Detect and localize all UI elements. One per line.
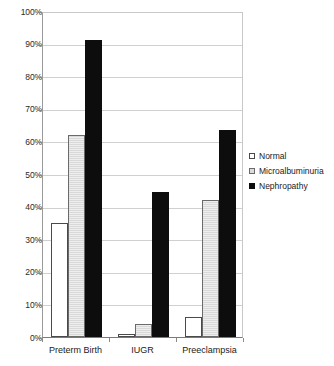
bar-micro[interactable] <box>68 135 85 337</box>
y-axis-tick-label: 30% <box>4 236 42 245</box>
legend-swatch-icon <box>249 168 255 174</box>
bars-layer <box>43 13 242 337</box>
y-axis-tick-label: 10% <box>4 301 42 310</box>
bar-chart: 0%10%20%30%40%50%60%70%80%90%100% Preter… <box>0 0 334 366</box>
y-axis-tick-label: 50% <box>4 171 42 180</box>
bar-group <box>43 13 110 337</box>
x-axis-tick-mark <box>243 338 244 342</box>
x-axis-category-label: Preterm Birth <box>42 345 109 356</box>
bar-group <box>110 13 177 337</box>
legend-swatch-icon <box>249 183 255 189</box>
x-axis-category-label: IUGR <box>109 345 176 356</box>
y-axis-tick-label: 40% <box>4 203 42 212</box>
y-axis-tick-label: 100% <box>4 8 42 17</box>
bar-neph[interactable] <box>152 192 169 337</box>
legend-item[interactable]: Normal <box>249 149 334 163</box>
legend-item[interactable]: Microalbuminuria <box>249 164 334 178</box>
y-axis-tick-label: 0% <box>4 334 42 343</box>
y-axis-tick-label: 20% <box>4 268 42 277</box>
x-axis-category-label: Preeclampsia <box>176 345 243 356</box>
legend-item[interactable]: Nephropathy <box>249 179 334 193</box>
y-axis-tick-label: 60% <box>4 138 42 147</box>
y-axis-tick-label: 70% <box>4 105 42 114</box>
bar-micro[interactable] <box>135 324 152 337</box>
x-axis-tick-mark <box>109 338 110 342</box>
x-axis-tick-mark <box>176 338 177 342</box>
legend-label: Normal <box>259 152 286 161</box>
legend: NormalMicroalbuminuriaNephropathy <box>249 149 334 194</box>
legend-swatch-icon <box>249 153 255 159</box>
bar-neph[interactable] <box>219 130 236 337</box>
y-axis: 0%10%20%30%40%50%60%70%80%90%100% <box>0 12 42 338</box>
bar-micro[interactable] <box>202 200 219 337</box>
bar-normal[interactable] <box>51 223 68 337</box>
legend-label: Nephropathy <box>259 182 308 191</box>
bar-normal[interactable] <box>118 334 135 337</box>
x-axis-tick-mark <box>42 338 43 342</box>
plot-area <box>42 12 243 338</box>
legend-label: Microalbuminuria <box>259 167 324 176</box>
y-axis-tick-label: 90% <box>4 40 42 49</box>
bar-normal[interactable] <box>185 317 202 337</box>
bar-group <box>177 13 244 337</box>
bar-neph[interactable] <box>85 40 102 337</box>
y-axis-tick-label: 80% <box>4 73 42 82</box>
